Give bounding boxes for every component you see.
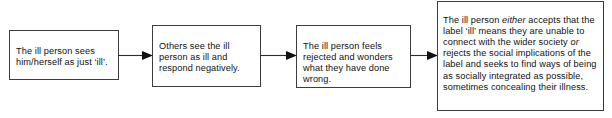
- text-run: rejects the social implications of the l…: [443, 48, 597, 91]
- text-run: The ill person: [443, 15, 502, 25]
- flowchart-node-self-perception: The ill person sees him/herself as just …: [9, 30, 119, 80]
- flowchart-node-rejection-feeling: The ill person feels rejected and wonder…: [296, 25, 411, 88]
- arrow-right-icon: [118, 50, 153, 61]
- flowchart-diagram: The ill person sees him/herself as just …: [0, 0, 612, 118]
- node-text: The ill person feels rejected and wonder…: [303, 41, 405, 85]
- arrow-right-icon: [260, 50, 297, 61]
- flowchart-node-acceptance-or-rejection: The ill person either accepts that the l…: [437, 1, 604, 111]
- arrow-right-icon: [410, 50, 438, 61]
- node-text: The ill person either accepts that the l…: [443, 15, 599, 93]
- node-text: The ill person sees him/herself as just …: [16, 46, 113, 68]
- arrow-node3-to-node4: [410, 50, 438, 61]
- arrow-node1-to-node2: [118, 50, 153, 61]
- flowchart-node-others-reaction: Others see the ill person as ill and res…: [152, 25, 261, 87]
- emphasised-word: either: [502, 15, 526, 25]
- arrow-node2-to-node3: [260, 50, 297, 61]
- emphasised-word: or: [570, 37, 578, 47]
- node-text: Others see the ill person as ill and res…: [159, 41, 255, 74]
